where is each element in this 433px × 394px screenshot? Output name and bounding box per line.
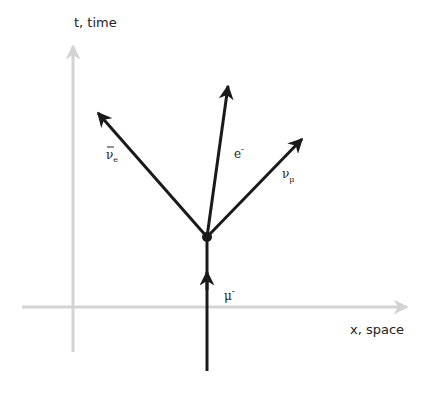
muon-label: μ- (224, 286, 235, 303)
svg-text:νe: νe (106, 148, 118, 164)
electron-antineutrino-label: νe (106, 147, 118, 164)
electron-worldline (207, 86, 228, 237)
electron-label: e- (234, 144, 244, 161)
space-axis-label: x, space (350, 322, 404, 337)
particle-worldlines (98, 86, 302, 371)
particle-labels: μ- e- νμ νe (106, 144, 295, 303)
spacetime-diagram: t, time x, space μ- e- νμ νe (0, 0, 433, 394)
time-axis-label: t, time (74, 15, 117, 30)
muon-neutrino-worldline (207, 139, 302, 237)
decay-vertex (202, 232, 212, 242)
muon-neutrino-label: νμ (282, 167, 295, 184)
electron-antineutrino-worldline (98, 113, 207, 237)
